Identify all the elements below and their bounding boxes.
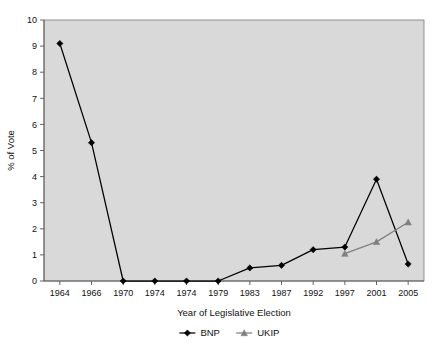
x-tick-label: 1974: [145, 288, 165, 298]
y-axis-title: % of Vote: [5, 130, 16, 171]
x-axis-tick-labels: 1964196619701974197419791983198719921997…: [50, 281, 418, 298]
x-tick-label: 1983: [240, 288, 260, 298]
legend-label-bnp: BNP: [200, 327, 220, 338]
y-tick-label: 3: [32, 198, 37, 208]
plot-area-container: 012345678910 196419661970197419741979198…: [0, 0, 441, 350]
x-axis-title: Year of Legislative Election: [177, 307, 291, 318]
chart-figure: 012345678910 196419661970197419741979198…: [0, 0, 441, 350]
chart-legend: BNPUKIP: [179, 327, 279, 338]
y-tick-label: 5: [32, 146, 37, 156]
y-tick-label: 7: [32, 94, 37, 104]
y-tick-label: 0: [32, 276, 37, 286]
x-tick-label: 1992: [303, 288, 323, 298]
x-tick-label: 2005: [398, 288, 418, 298]
plot-background: [44, 20, 424, 281]
x-tick-label: 1987: [271, 288, 291, 298]
y-axis-tick-labels: 012345678910: [27, 15, 44, 286]
y-tick-label: 10: [27, 15, 37, 25]
x-tick-label: 1966: [81, 288, 101, 298]
x-tick-label: 1964: [50, 288, 70, 298]
y-tick-label: 6: [32, 120, 37, 130]
y-tick-label: 8: [32, 67, 37, 77]
x-tick-label: 2001: [366, 288, 386, 298]
x-tick-label: 1970: [113, 288, 133, 298]
y-tick-label: 4: [32, 172, 37, 182]
data-point-marker: [184, 330, 190, 336]
y-tick-label: 1: [32, 250, 37, 260]
line-chart-svg: 012345678910 196419661970197419741979198…: [0, 0, 441, 350]
x-tick-label: 1979: [208, 288, 228, 298]
y-tick-label: 2: [32, 224, 37, 234]
x-tick-label: 1997: [335, 288, 355, 298]
y-tick-label: 9: [32, 41, 37, 51]
x-tick-label: 1974: [176, 288, 196, 298]
legend-label-ukip: UKIP: [257, 327, 279, 338]
